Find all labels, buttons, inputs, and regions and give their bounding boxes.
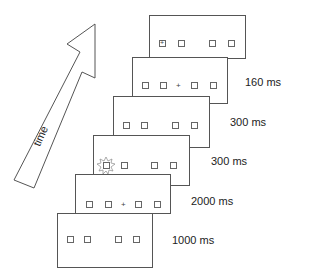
placeholder-box [135,201,142,208]
placeholder-box [154,201,161,208]
duration-frame-3: 300 ms [211,155,247,167]
placeholder-box [84,236,91,243]
placeholder-box [209,40,216,47]
duration-frame-5: 160 ms [245,76,281,88]
placeholder-box [191,82,198,89]
target-plus: + [160,39,164,47]
placeholder-box [142,82,149,89]
placeholder-box [121,162,128,169]
placeholder-box [115,236,122,243]
placeholder-box [133,236,140,243]
placeholder-box [123,122,130,129]
placeholder-box [172,122,179,129]
duration-frame-4: 300 ms [230,116,266,128]
fixation-cross: + [121,201,126,209]
fixation-cross: + [176,82,181,90]
placeholder-box [67,236,74,243]
placeholder-box [151,162,158,169]
duration-frame-2: 2000 ms [191,195,233,207]
placeholder-box [105,201,112,208]
placeholder-box [86,201,93,208]
frame-1 [57,213,153,268]
placeholder-box [170,162,177,169]
placeholder-box [178,40,185,47]
duration-frame-1: 1000 ms [172,234,214,246]
frame-2: + [75,174,171,214]
placeholder-box [160,82,167,89]
placeholder-box [191,122,198,129]
cued-placeholder-box [103,162,110,169]
placeholder-box [210,82,217,89]
frame-6: + [149,15,246,59]
placeholder-box [228,40,235,47]
placeholder-box [141,122,148,129]
